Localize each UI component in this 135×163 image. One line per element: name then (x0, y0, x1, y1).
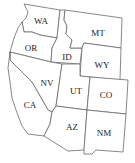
western-us-map: WA OR ID MT WY NV UT CO CA AZ NM (0, 0, 135, 163)
label-id: ID (62, 52, 72, 62)
label-ca: CA (24, 100, 37, 110)
label-ut: UT (70, 86, 82, 96)
label-nm: NM (97, 128, 112, 138)
label-co: CO (100, 90, 113, 100)
label-az: AZ (66, 122, 78, 132)
label-nv: NV (41, 78, 54, 88)
label-or: OR (25, 43, 38, 53)
label-wa: WA (34, 16, 48, 26)
label-wy: WY (95, 60, 110, 70)
label-mt: MT (91, 28, 105, 38)
